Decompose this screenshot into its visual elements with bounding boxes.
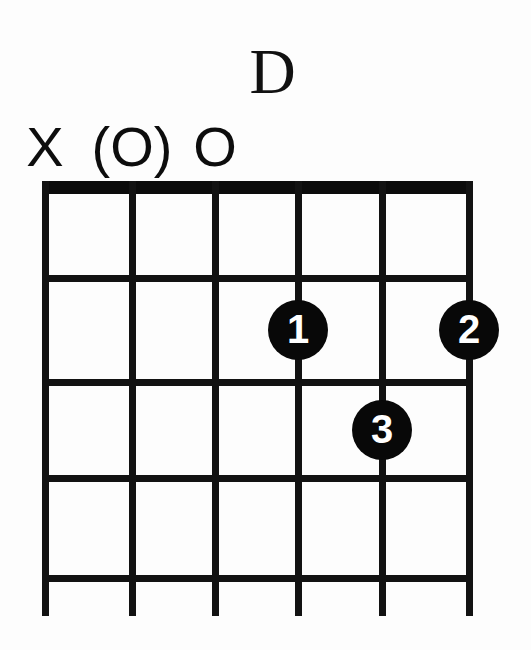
finger-number: 3 bbox=[371, 409, 393, 449]
guitar-chord-diagram: D X(O)O 132 bbox=[0, 0, 531, 650]
string-line-3 bbox=[212, 181, 219, 616]
fret-line-4 bbox=[42, 575, 473, 582]
fretboard: 132 bbox=[0, 0, 531, 650]
fret-line-3 bbox=[42, 475, 473, 482]
string-line-1 bbox=[42, 181, 49, 616]
string-line-5 bbox=[379, 181, 386, 616]
string-line-2 bbox=[129, 181, 136, 616]
fret-line-1 bbox=[42, 275, 473, 282]
finger-number: 2 bbox=[458, 309, 480, 349]
string-line-4 bbox=[295, 181, 302, 616]
finger-dot-3: 3 bbox=[352, 400, 412, 460]
fret-line-2 bbox=[42, 379, 473, 386]
finger-dot-2: 2 bbox=[439, 300, 499, 360]
string-line-6 bbox=[466, 181, 473, 616]
nut bbox=[42, 181, 473, 194]
finger-dot-1: 1 bbox=[268, 300, 328, 360]
finger-number: 1 bbox=[287, 309, 309, 349]
